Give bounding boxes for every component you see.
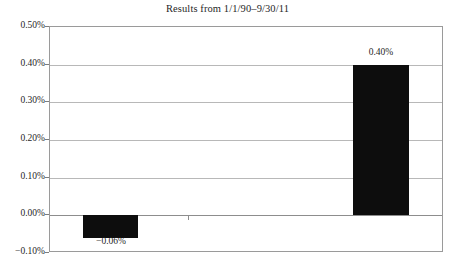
y-tick-mark-neg010 bbox=[45, 252, 49, 253]
bar-chart: Results from 1/1/90–9/30/11 0.50% 0.40% … bbox=[0, 0, 455, 261]
y-tick-label-030: 0.30% bbox=[1, 95, 45, 105]
y-tick-label-050: 0.50% bbox=[1, 20, 45, 30]
y-tick-label-000: 0.00% bbox=[1, 208, 45, 218]
y-tick-label-040: 0.40% bbox=[1, 58, 45, 68]
chart-title: Results from 1/1/90–9/30/11 bbox=[0, 3, 455, 14]
category-tick bbox=[188, 215, 189, 220]
bar-negative[interactable] bbox=[83, 215, 138, 238]
y-axis: 0.50% 0.40% 0.30% 0.20% 0.10% 0.00% −0.1… bbox=[0, 0, 45, 261]
bar-value-label-negative: −0.06% bbox=[75, 236, 147, 246]
y-tick-label-neg010: −0.10% bbox=[1, 246, 45, 256]
y-tick-label-020: 0.20% bbox=[1, 133, 45, 143]
plot-area bbox=[49, 26, 443, 252]
bar-positive[interactable] bbox=[353, 65, 409, 216]
y-tick-label-010: 0.10% bbox=[1, 171, 45, 181]
bar-value-label-positive: 0.40% bbox=[345, 47, 417, 57]
